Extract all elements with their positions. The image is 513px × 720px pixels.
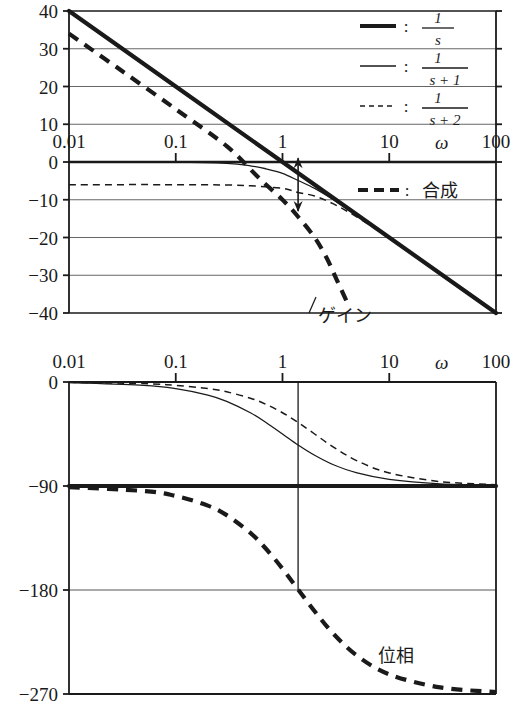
magnitude-ytick-label--10: −10 [28,190,58,211]
legend-numerator-one-over-s: 1 [434,10,442,26]
legend-colon-one-over-s-p-2: : [404,97,409,116]
legend-denominator-one-over-s: s [435,32,441,48]
phase-xtick-label-100: 100 [482,351,511,372]
magnitude-xtick-label-0.1: 0.1 [164,131,188,152]
legend-numerator-one-over-s-p-2: 1 [434,90,442,106]
legend-denominator-one-over-s-p-2: s + 2 [430,112,461,128]
legend-denominator-one-over-s-p-1: s + 1 [430,72,461,88]
phase-xtick-label-10: 10 [380,351,399,372]
magnitude-xtick-label-0.01: 0.01 [52,131,85,152]
phase-curve-1/(s+1) [69,383,496,486]
legend-colon-composite: : [405,181,410,200]
magnitude-curve-1/(s+2) [69,185,496,313]
magnitude-ytick-label-30: 30 [39,39,58,60]
phase-xtick-label-1: 1 [278,351,288,372]
magnitude-xtick-label-10: 10 [380,131,399,152]
magnitude-curve-合成 [69,34,347,302]
bode-figure: 403020100−10−20−30−400.010.1110100ωゲイン:1… [0,0,513,720]
phase-ytick-label-0: 0 [49,372,59,393]
magnitude-ytick-label-20: 20 [39,77,58,98]
legend-colon-one-over-s: : [404,17,409,36]
magnitude-xtick-label-1: 1 [278,131,288,152]
magnitude-ytick-label--20: −20 [28,228,58,249]
legend-numerator-one-over-s-p-1: 1 [434,50,442,66]
magnitude-ytick-label--30: −30 [28,265,58,286]
phase-omega-label: ω [435,352,448,373]
phase-xtick-label-0.1: 0.1 [164,351,188,372]
phase-ytick-label--270: −270 [19,684,58,705]
magnitude-ytick-label--40: −40 [28,303,58,324]
magnitude-omega-label: ω [435,132,448,153]
magnitude-xtick-label-100: 100 [482,131,511,152]
legend-label-composite: 合成 [422,180,458,201]
phase-xtick-label-0.01: 0.01 [52,351,85,372]
phase-ytick-label--180: −180 [19,580,58,601]
gain-annotation-label: ゲイン [318,305,372,326]
phase-ytick-label--90: −90 [28,476,58,497]
gain-label-leader [309,297,316,313]
bode-plot-svg: 403020100−10−20−30−400.010.1110100ωゲイン:1… [0,0,513,720]
magnitude-ytick-label-0: 0 [49,152,59,173]
phase-annotation-label: 位相 [378,645,414,666]
legend-colon-one-over-s-p-1: : [404,57,409,76]
magnitude-ytick-label-40: 40 [39,1,58,22]
